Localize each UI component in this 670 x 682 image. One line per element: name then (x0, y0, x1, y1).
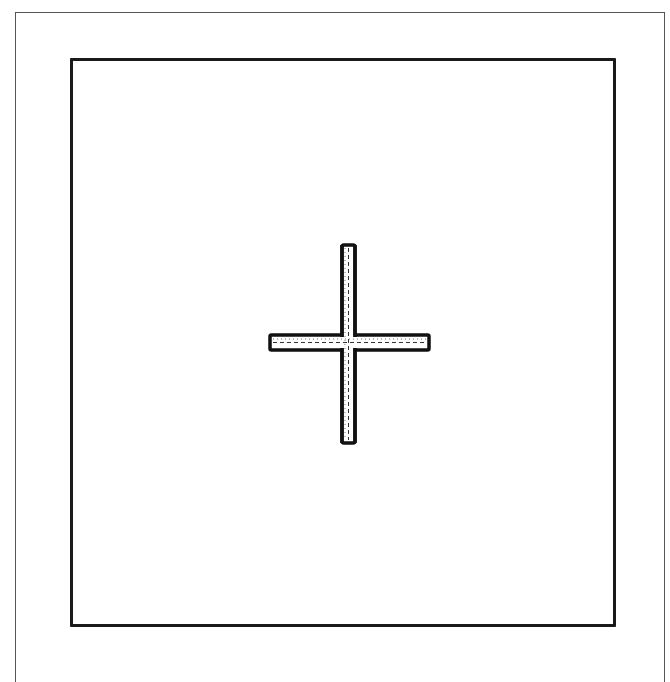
plus-cross-icon (0, 0, 670, 667)
